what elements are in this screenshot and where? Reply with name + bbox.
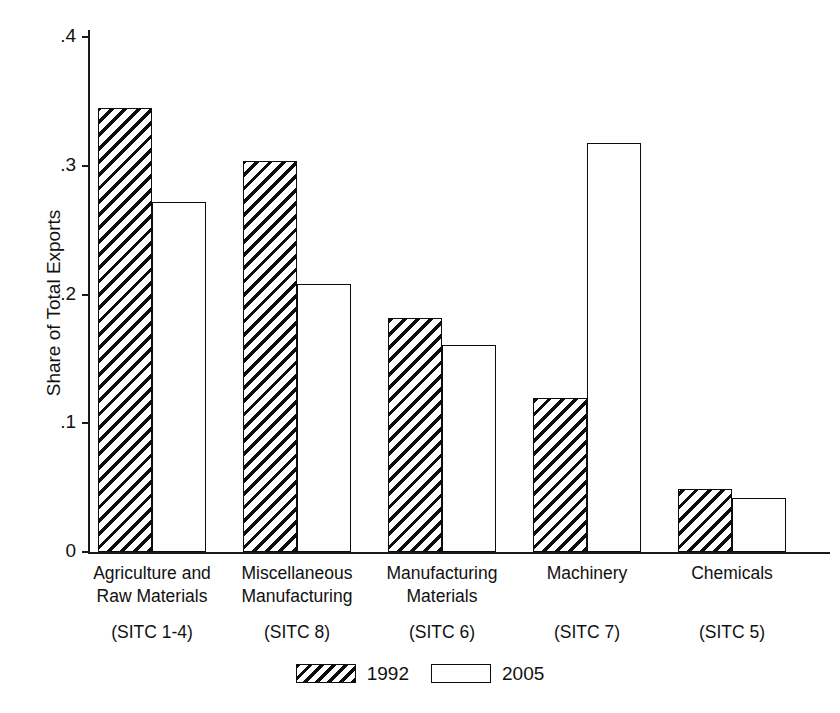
y-tick-label: .1 (16, 412, 76, 431)
y-tick-label: .2 (16, 284, 76, 303)
bar-1992-1 (243, 161, 297, 552)
y-axis-line (88, 30, 90, 554)
legend-item-2005: 2005 (431, 664, 544, 683)
bar-2005-3 (587, 143, 641, 552)
bar-2005-1 (297, 284, 351, 552)
category-label-line1: Agriculture and (93, 563, 211, 583)
y-tick-mark (82, 36, 89, 38)
legend-label-1992: 1992 (367, 664, 409, 683)
category-label-4: Chemicals(SITC 5) (640, 562, 824, 644)
y-tick-mark (82, 165, 89, 167)
legend-item-1992: 1992 (296, 664, 409, 683)
y-tick-mark (82, 294, 89, 296)
y-tick-mark (82, 551, 89, 553)
chart-legend: 1992 2005 (0, 664, 840, 683)
bar-chart: Share of Total Exports 0.1.2.3.4 Agricul… (0, 0, 840, 713)
legend-swatch-hatched-icon (296, 664, 356, 683)
legend-label-2005: 2005 (502, 664, 544, 683)
bar-1992-3 (533, 398, 587, 553)
bar-2005-2 (442, 345, 496, 552)
x-axis-line (88, 552, 830, 554)
category-sitc-code: (SITC 5) (640, 621, 824, 644)
category-label-line1: Chemicals (691, 563, 773, 583)
y-tick-label: .4 (16, 26, 76, 45)
y-tick-label: 0 (16, 541, 76, 560)
category-label-line1: Machinery (547, 563, 628, 583)
legend-swatch-white-icon (431, 664, 491, 683)
bar-1992-0 (98, 108, 152, 552)
bar-1992-2 (388, 318, 442, 552)
y-tick-mark (82, 422, 89, 424)
category-label-line1: Manufacturing (387, 563, 498, 583)
bar-2005-0 (152, 202, 206, 552)
bar-1992-4 (678, 489, 732, 552)
category-label-line1: Miscellaneous (242, 563, 353, 583)
y-tick-label: .3 (16, 155, 76, 174)
bar-2005-4 (732, 498, 786, 552)
